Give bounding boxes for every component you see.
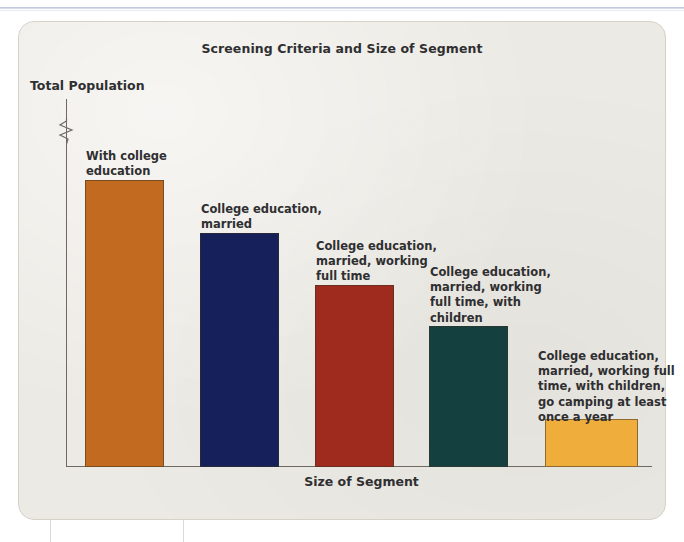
page-top-rule xyxy=(0,7,684,9)
bar-5[interactable] xyxy=(545,419,638,467)
bar-4-label-line-2: married, working xyxy=(430,280,575,295)
bar-4[interactable] xyxy=(429,326,508,467)
bar-5-label-line-4: go camping at least xyxy=(538,395,684,410)
bar-1[interactable] xyxy=(85,180,164,467)
x-axis-title: Size of Segment xyxy=(85,474,638,489)
bar-5-label-line-2: married, working full xyxy=(538,364,684,379)
bar-2-label: College education, married xyxy=(201,202,341,232)
bar-2-label-line-2: married xyxy=(201,217,341,232)
bar-5-label: College education, married, working full… xyxy=(538,349,684,425)
bar-5-label-line-3: time, with children, xyxy=(538,379,684,394)
bar-2-label-line-1: College education, xyxy=(201,202,341,217)
bar-1-label: With college education xyxy=(86,149,206,179)
page-top-rule-secondary xyxy=(0,10,684,11)
bar-5-label-line-1: College education, xyxy=(538,349,684,364)
bar-1-label-line-2: education xyxy=(86,164,206,179)
bar-1-label-line-1: With college xyxy=(86,149,206,164)
bar-3-label-line-1: College education, xyxy=(316,239,456,254)
bar-4-label-line-4: children xyxy=(430,311,575,326)
bar-5-label-line-5: once a year xyxy=(538,410,684,425)
y-axis-line xyxy=(66,99,67,467)
chart-title: Screening Criteria and Size of Segment xyxy=(0,41,684,56)
axis-break-icon xyxy=(58,118,75,144)
bar-3[interactable] xyxy=(315,285,394,467)
bar-4-label-line-1: College education, xyxy=(430,265,575,280)
y-axis-title: Total Population xyxy=(30,78,145,93)
bar-4-label: College education, married, working full… xyxy=(430,265,575,326)
bar-4-label-line-3: full time, with xyxy=(430,295,575,310)
bar-2[interactable] xyxy=(200,233,279,467)
